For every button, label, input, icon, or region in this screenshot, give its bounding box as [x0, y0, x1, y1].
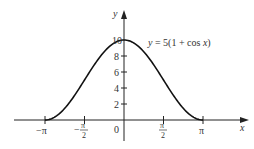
x-tick-label-zero: 0 — [114, 124, 119, 135]
y-tick-label-6: 6 — [114, 67, 119, 78]
y-tick-label-8: 8 — [114, 51, 119, 62]
svg-text:−: − — [74, 124, 80, 135]
y-tick-label-10: 10 — [112, 35, 122, 46]
x-tick-label-pi: π — [199, 125, 204, 136]
x-tick-label-neg-half-pi: − π 2 — [74, 121, 88, 140]
y-axis-label: y — [112, 8, 118, 19]
svg-text:2: 2 — [161, 131, 165, 140]
equation-label: y = 5(1 + cos x) — [147, 37, 211, 49]
y-tick-label-4: 4 — [114, 83, 119, 94]
y-tick-label-2: 2 — [114, 99, 119, 110]
svg-text:2: 2 — [82, 131, 86, 140]
svg-text:π: π — [160, 121, 164, 130]
x-tick-label-neg-pi: −π — [36, 125, 47, 136]
x-axis-label: x — [239, 122, 245, 133]
chart: y x 10 8 6 4 2 −π − π 2 0 π 2 π y = 5(1 … — [0, 0, 254, 149]
svg-text:π: π — [81, 121, 85, 130]
x-tick-label-half-pi: π 2 — [159, 121, 167, 140]
y-axis-arrow-icon — [121, 10, 127, 19]
